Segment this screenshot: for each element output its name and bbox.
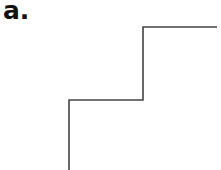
step-line (69, 27, 217, 170)
step-diagram (0, 0, 221, 170)
